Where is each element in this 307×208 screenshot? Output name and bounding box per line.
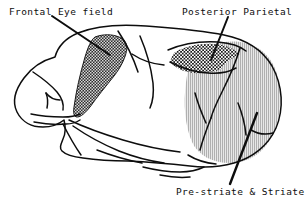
brain-illustration bbox=[0, 0, 307, 208]
region-frontal-eye-field bbox=[74, 35, 127, 117]
temporal-pole-upper bbox=[31, 114, 80, 117]
central-sulcus bbox=[140, 36, 153, 108]
inferior-temporal-contour bbox=[143, 167, 204, 172]
sulcus-orbital-branch bbox=[46, 93, 48, 108]
inferior-temporal-branch bbox=[160, 175, 190, 177]
brain-diagram-figure: Frontal Eye field Posterior Parietal Pre… bbox=[0, 0, 307, 208]
sylvian-fissure bbox=[69, 120, 180, 152]
temporal-sulcus-branch bbox=[63, 124, 81, 155]
label-prestriate-striate: Pre-striate & Striate bbox=[176, 187, 305, 197]
label-posterior-parietal: Posterior Parietal bbox=[182, 7, 292, 17]
label-frontal-eye-field: Frontal Eye field bbox=[9, 7, 113, 17]
